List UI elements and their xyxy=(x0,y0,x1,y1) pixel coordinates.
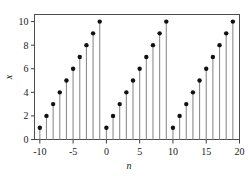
stem-marker xyxy=(144,55,148,59)
y-axis-title: x xyxy=(3,74,14,80)
stem-marker xyxy=(131,78,135,82)
stem-marker xyxy=(231,19,235,23)
stem-marker xyxy=(58,90,62,94)
stem-marker xyxy=(111,114,115,118)
x-tick-label: -5 xyxy=(69,146,77,157)
stem-marker xyxy=(78,55,82,59)
stem-marker xyxy=(197,78,201,82)
stem-marker xyxy=(224,31,228,35)
stem-marker xyxy=(164,19,168,23)
stem-plot-figure: 0246810-10-505101520nx xyxy=(0,0,251,177)
stem-marker xyxy=(91,31,95,35)
stem-marker xyxy=(217,43,221,47)
stem-marker xyxy=(38,126,42,130)
stem-marker xyxy=(177,114,181,118)
stem-marker xyxy=(84,43,88,47)
stem-marker xyxy=(157,31,161,35)
y-tick-label: 0 xyxy=(24,134,29,145)
x-tick-label: -10 xyxy=(33,146,46,157)
stem-marker xyxy=(44,114,48,118)
x-tick-label: 15 xyxy=(201,146,211,157)
x-axis-title: n xyxy=(127,160,132,171)
stem-marker xyxy=(171,126,175,130)
stem-marker xyxy=(211,55,215,59)
stem-marker xyxy=(51,102,55,106)
stem-marker xyxy=(104,126,108,130)
x-tick-label: 5 xyxy=(137,146,142,157)
stem-marker xyxy=(117,102,121,106)
x-tick-label: 0 xyxy=(104,146,109,157)
stem-marker xyxy=(71,67,75,71)
stem-marker xyxy=(64,78,68,82)
stem-marker xyxy=(184,102,188,106)
stem-marker xyxy=(124,90,128,94)
stem-marker xyxy=(151,43,155,47)
y-tick-label: 10 xyxy=(19,16,29,27)
x-tick-label: 20 xyxy=(235,146,245,157)
stem-marker xyxy=(204,67,208,71)
stem-marker xyxy=(137,67,141,71)
stem-marker xyxy=(98,19,102,23)
stem-marker xyxy=(191,90,195,94)
x-tick-label: 10 xyxy=(168,146,178,157)
y-tick-label: 4 xyxy=(24,87,29,98)
y-tick-label: 8 xyxy=(24,40,29,51)
y-tick-label: 2 xyxy=(24,110,29,121)
y-tick-label: 6 xyxy=(24,63,29,74)
